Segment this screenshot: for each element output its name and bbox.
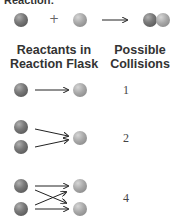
row2-arrow-1 — [35, 129, 68, 136]
row3-arrow-cross-1 — [35, 190, 66, 203]
row3-arrow-cross-2 — [35, 192, 66, 205]
row2-arrow-2 — [35, 140, 68, 147]
arrows-layer — [0, 0, 182, 221]
